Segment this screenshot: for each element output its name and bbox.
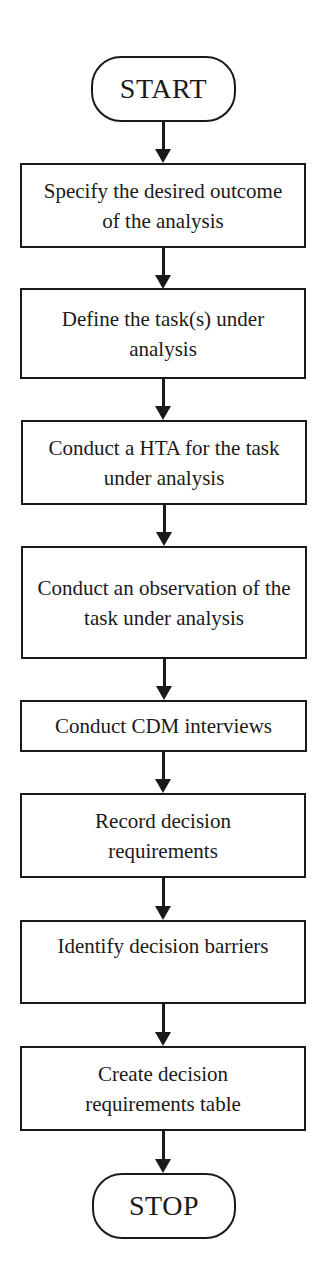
- step-record-requirements: Record decision requirements: [20, 793, 306, 878]
- step-conduct-observation: Conduct an observation of the task under…: [21, 546, 307, 659]
- step-label: Define the task(s) under analysis: [33, 304, 293, 364]
- step-label: Specify the desired outcome of the analy…: [33, 176, 293, 236]
- arrowhead-icon: [155, 406, 171, 420]
- step-label: Conduct an observation of the task under…: [37, 573, 292, 633]
- stop-label: STOP: [129, 1191, 199, 1221]
- arrowhead-icon: [155, 779, 171, 793]
- step-conduct-hta: Conduct a HTA for the task under analysi…: [21, 420, 307, 505]
- step-label: Create decision requirements table: [53, 1059, 273, 1119]
- arrowhead-icon: [156, 686, 172, 700]
- arrowhead-icon: [155, 906, 171, 920]
- arrowhead-icon: [155, 275, 171, 289]
- step-label: Identify decision barriers: [57, 931, 268, 961]
- step-label: Record decision requirements: [63, 806, 263, 866]
- step-label: Conduct a HTA for the task under analysi…: [39, 433, 289, 493]
- stop-terminal: STOP: [92, 1173, 236, 1239]
- arrowhead-icon: [156, 532, 172, 546]
- arrowhead-icon: [155, 1159, 171, 1173]
- start-terminal: START: [91, 56, 236, 122]
- start-label: START: [120, 74, 207, 104]
- step-cdm-interviews: Conduct CDM interviews: [20, 700, 307, 752]
- step-create-table: Create decision requirements table: [20, 1046, 306, 1131]
- step-define-tasks: Define the task(s) under analysis: [20, 288, 306, 379]
- step-specify-outcome: Specify the desired outcome of the analy…: [20, 163, 306, 248]
- step-label: Conduct CDM interviews: [55, 711, 272, 741]
- step-identify-barriers: Identify decision barriers: [20, 920, 306, 1004]
- arrowhead-icon: [155, 1032, 171, 1046]
- arrowhead-icon: [155, 149, 171, 163]
